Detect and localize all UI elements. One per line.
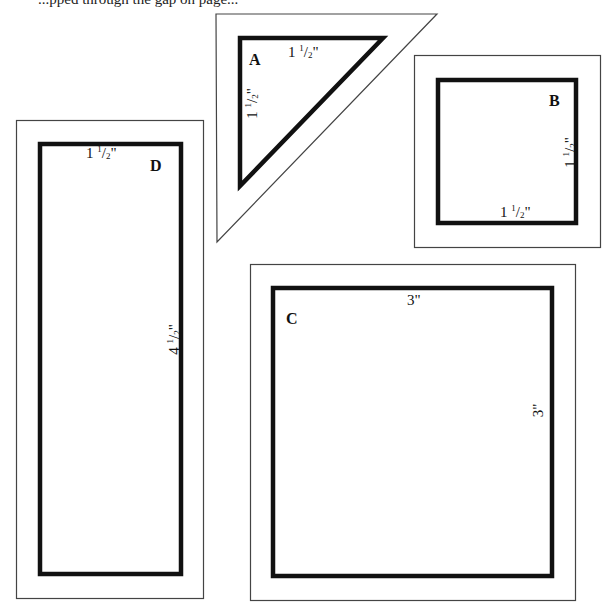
template-a-side-dimension: 1 1/2" [245,82,260,126]
template-a-cutting-line [240,38,383,186]
template-d-top-dimension: 1 1/2" [86,146,117,161]
template-d-side-dimension: 4 1/2" [167,316,182,364]
dimension-denominator: 2 [250,94,260,99]
templates-diagram [0,0,608,612]
template-d-cutting-line [40,144,181,574]
dimension-numerator: 1 [243,103,253,108]
dimension-unit: " [244,88,260,94]
dimension-whole: 1 [562,160,578,168]
template-d-letter: D [150,158,162,174]
dimension-unit: " [524,204,530,220]
template-c-top-dimension: 3" [407,293,421,308]
dimension-whole: 1 [500,204,508,220]
dimension-unit: " [110,145,116,161]
template-b-side-dimension: 1 1/2" [563,131,578,175]
dimension-unit: " [312,44,318,60]
template-b-bottom-dimension: 1 1/2" [500,205,531,220]
template-a-seam-allowance-outline [216,14,437,242]
dimension-denominator: 2 [568,143,578,148]
dimension-denominator: 2 [172,330,182,335]
template-c-letter: C [286,311,298,327]
dimension-whole: 1 [288,44,296,60]
dimension-numerator: 1 [97,144,102,154]
template-c [251,265,576,601]
dimension-unit: " [562,137,578,143]
template-b-letter: B [549,93,560,109]
dimension-whole: 1 [244,111,260,119]
template-a-top-dimension: 1 1/2" [288,45,319,60]
template-c-seam-allowance-outline [251,265,576,601]
template-a-letter: A [249,52,261,68]
dimension-whole: 4 [166,347,182,355]
dimension-numerator: 1 [165,339,175,344]
dimension-numerator: 1 [561,152,571,157]
template-c-side-dimension: 3" [531,399,546,423]
dimension-whole: 1 [86,145,94,161]
dimension-unit: " [166,324,182,330]
dimension-numerator: 1 [511,203,516,213]
dimension-numerator: 1 [299,43,304,53]
template-c-cutting-line [273,288,552,576]
template-a [216,14,437,242]
